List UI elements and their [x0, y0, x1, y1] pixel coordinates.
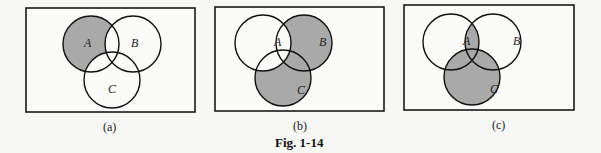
- panel-b: A B C (b): [215, 7, 384, 133]
- panel-caption: (b): [293, 119, 307, 133]
- label-c: C: [108, 82, 117, 96]
- panel-caption: (a): [103, 120, 116, 134]
- label-b: B: [513, 34, 521, 48]
- figure-caption: Fig. 1-14: [275, 135, 324, 150]
- panel-c: A B C (c): [404, 5, 574, 132]
- venn-figure: A B C (a) A B C (b) A B C (c) Fig. 1-14: [0, 0, 601, 153]
- label-a: A: [462, 34, 471, 48]
- label-a: A: [273, 35, 282, 49]
- label-b: B: [319, 35, 327, 49]
- panel-caption: (c): [492, 118, 505, 132]
- label-b: B: [131, 36, 139, 50]
- label-c: C: [490, 82, 499, 96]
- label-c: C: [297, 83, 306, 97]
- label-a: A: [83, 36, 92, 50]
- panel-a: A B C (a): [26, 8, 195, 134]
